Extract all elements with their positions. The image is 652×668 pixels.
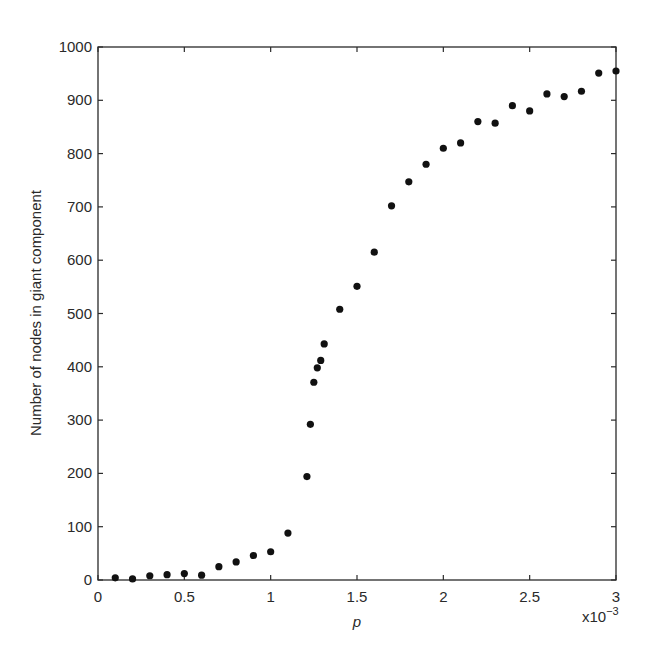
data-point [509, 102, 516, 109]
data-point [146, 572, 153, 579]
y-tick-label: 400 [67, 358, 92, 375]
x-axis-label: p [352, 613, 361, 630]
y-tick-label: 600 [67, 251, 92, 268]
data-point [310, 379, 317, 386]
x-tick-label: 0 [94, 588, 102, 605]
data-point [457, 139, 464, 146]
data-point [112, 574, 119, 581]
data-point [353, 283, 360, 290]
y-tick-label: 800 [67, 145, 92, 162]
y-tick-label: 300 [67, 411, 92, 428]
x-tick-label: 3 [612, 588, 620, 605]
data-point [405, 178, 412, 185]
x-axis-multiplier-exponent: −3 [606, 605, 619, 617]
data-point [215, 563, 222, 570]
data-point [267, 548, 274, 555]
data-point [561, 93, 568, 100]
data-point [440, 145, 447, 152]
data-point [198, 572, 205, 579]
y-axis-label: Number of nodes in giant component [27, 189, 44, 436]
x-tick-label: 1 [266, 588, 274, 605]
data-point [492, 120, 499, 127]
data-point [317, 357, 324, 364]
data-point [233, 558, 240, 565]
plot-area [98, 47, 616, 580]
data-point [314, 364, 321, 371]
data-point [388, 202, 395, 209]
data-point [474, 118, 481, 125]
x-tick-label: 2.5 [519, 588, 540, 605]
data-point [578, 88, 585, 95]
y-tick-label: 200 [67, 464, 92, 481]
x-tick-label: 0.5 [174, 588, 195, 605]
y-tick-label: 0 [84, 571, 92, 588]
y-tick-label: 100 [67, 518, 92, 535]
x-axis-multiplier-base: x10 [582, 608, 606, 625]
data-point [284, 529, 291, 536]
y-tick-label: 700 [67, 198, 92, 215]
data-point [336, 306, 343, 313]
x-tick-label: 1.5 [347, 588, 368, 605]
data-point [250, 552, 257, 559]
data-point [163, 571, 170, 578]
data-point [129, 575, 136, 582]
data-point [307, 421, 314, 428]
data-point [303, 473, 310, 480]
data-point [321, 340, 328, 347]
data-point [181, 570, 188, 577]
data-point [595, 70, 602, 77]
data-point [543, 90, 550, 97]
y-tick-label: 1000 [59, 38, 92, 55]
data-point [526, 107, 533, 114]
y-tick-label: 900 [67, 91, 92, 108]
data-point [422, 161, 429, 168]
x-axis-multiplier: x10−3 [582, 605, 619, 625]
data-point [612, 67, 619, 74]
x-tick-labels: 00.511.522.53 [94, 588, 620, 605]
y-tick-label: 500 [67, 305, 92, 322]
x-tick-label: 2 [439, 588, 447, 605]
data-point [371, 249, 378, 256]
y-tick-labels: 01002003004005006007008009001000 [59, 38, 92, 588]
scatter-chart: 00.511.522.53 01002003004005006007008009… [0, 0, 652, 668]
